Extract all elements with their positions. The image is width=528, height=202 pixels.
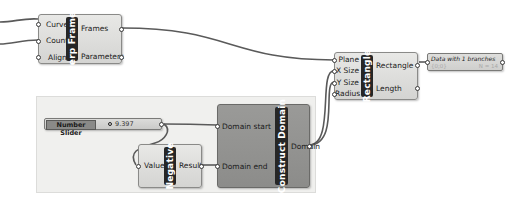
construct-domain-component[interactable]: Domain start Domain end Construct Domain…: [217, 104, 310, 188]
slider-value: 9.397: [115, 120, 134, 129]
slider-handle[interactable]: [108, 122, 112, 126]
perp-frames-title-band: Perp Frames: [66, 17, 78, 61]
grip-count[interactable]: [36, 39, 41, 44]
panel-header: Data with 1 branches: [431, 55, 495, 62]
wire-count-in: [0, 40, 38, 44]
perp-frames-title: Perp Frames: [67, 6, 77, 72]
input-curve[interactable]: Curve: [46, 20, 68, 29]
negative-title: Negative: [165, 142, 175, 189]
grip-value[interactable]: [136, 164, 141, 169]
construct-domain-title: Construct Domain: [277, 99, 287, 193]
output-length[interactable]: Length: [376, 84, 402, 93]
input-radius[interactable]: Radius: [335, 89, 359, 98]
rectangle-component[interactable]: Plane X Size Y Size Radius Rectangle Rec…: [334, 52, 418, 100]
grip-radius[interactable]: [332, 92, 337, 97]
perp-frames-component[interactable]: Curve Count Align Perp Frames Frames Par…: [38, 14, 122, 64]
construct-domain-title-band: Construct Domain: [275, 107, 288, 185]
input-domain-start[interactable]: Domain start: [222, 122, 271, 131]
negative-title-band: Negative: [164, 147, 176, 185]
panel-count: N = 14: [479, 63, 498, 69]
rectangle-title: Rectangle: [362, 50, 372, 103]
grasshopper-canvas[interactable]: Curve Count Align Perp Frames Frames Par…: [0, 0, 528, 202]
grip-plane[interactable]: [332, 58, 337, 63]
number-slider[interactable]: Number Slider 9.397: [44, 118, 162, 130]
input-plane[interactable]: Plane: [335, 55, 359, 64]
wire-frames-plane: [122, 28, 334, 60]
input-x-size[interactable]: X Size: [335, 66, 359, 75]
grip-domain-end[interactable]: [215, 164, 220, 169]
grip-frames[interactable]: [119, 27, 124, 32]
input-align[interactable]: Align: [48, 53, 67, 62]
grip-slider-out[interactable]: [159, 122, 164, 127]
input-y-size[interactable]: Y Size: [335, 78, 359, 87]
negative-component[interactable]: Value Negative Result: [138, 144, 202, 188]
grip-curve[interactable]: [36, 22, 41, 27]
rectangle-title-band: Rectangle: [361, 55, 373, 97]
input-domain-end[interactable]: Domain end: [222, 162, 268, 171]
grip-rectangle[interactable]: [415, 63, 420, 68]
data-panel[interactable]: Data with 1 branches {0;0} N = 14: [427, 53, 503, 71]
input-count[interactable]: Count: [46, 36, 68, 45]
grip-length[interactable]: [415, 86, 420, 91]
grip-panel-in[interactable]: [425, 60, 430, 65]
panel-branch-path: {0;0}: [431, 63, 447, 69]
grip-y-size[interactable]: [332, 81, 337, 86]
output-frames[interactable]: Frames: [81, 24, 108, 33]
grip-domain-start[interactable]: [215, 124, 220, 129]
grip-panel-out[interactable]: [500, 60, 505, 65]
input-value[interactable]: Value: [144, 161, 165, 170]
slider-name: Number Slider: [46, 120, 96, 130]
grip-parameters[interactable]: [119, 55, 124, 60]
grip-domain-out[interactable]: [307, 144, 312, 149]
output-rectangle[interactable]: Rectangle: [376, 61, 413, 70]
grip-result[interactable]: [199, 164, 204, 169]
wire-curve-in: [0, 19, 38, 22]
grip-align[interactable]: [36, 55, 41, 60]
output-parameters[interactable]: Parameters: [81, 52, 124, 61]
output-domain-label[interactable]: Domain: [291, 142, 320, 151]
grip-x-size[interactable]: [332, 69, 337, 74]
